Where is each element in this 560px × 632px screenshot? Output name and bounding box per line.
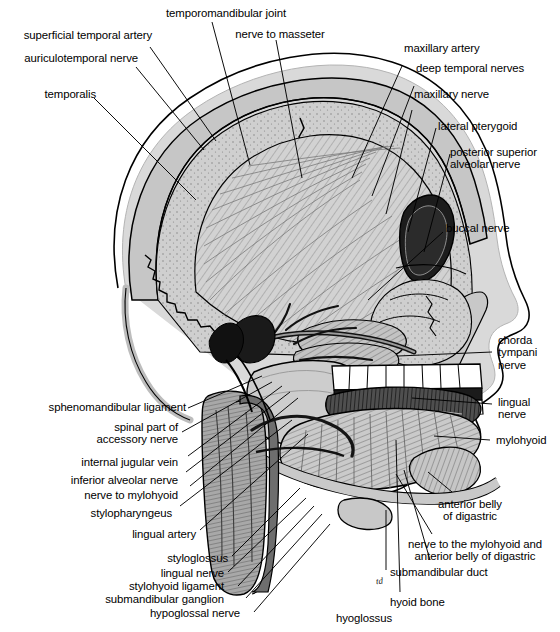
label-hypoglossal-nerve: hypoglossal nerve: [0, 607, 240, 619]
label-submandibular-duct: submandibular duct: [390, 566, 488, 578]
label-submandibular-ganglion: submandibular ganglion: [0, 593, 224, 605]
label-lingual-artery: lingual artery: [0, 528, 196, 540]
label-deep-temporal-nerves: deep temporal nerves: [416, 62, 524, 74]
label-maxillary-nerve: maxillary nerve: [414, 88, 489, 100]
anatomical-diagram: superficial temporal artery auriculotemp…: [0, 0, 560, 632]
label-anterior-belly-of-digastric: anterior belly of digastric: [424, 498, 516, 523]
label-mylohyoid: mylohyoid: [496, 434, 546, 446]
label-chorda-tympani-nerve: chorda tympani nerve: [498, 334, 537, 371]
artist-signature-mark: td: [375, 576, 383, 587]
label-sphenomandibular-ligament: sphenomandibular ligament: [0, 401, 186, 413]
label-superficial-temporal-artery: superficial temporal artery: [0, 29, 152, 41]
label-lingual-nerve-right: lingual nerve: [498, 396, 530, 421]
label-nerve-to-mylohyoid-and-anterior-belly-of-digastric: nerve to the mylohyoid and anterior bell…: [390, 538, 560, 563]
label-lingual-nerve-left: lingual nerve: [0, 567, 224, 579]
label-spinal-part-of-accessory-nerve: spinal part of accessory nerve: [0, 421, 178, 446]
hyoid-bone: [338, 498, 392, 529]
label-stylohyoid-ligament: stylohyoid ligament: [0, 580, 224, 592]
label-lateral-pterygoid: lateral pterygoid: [438, 120, 517, 132]
label-temporomandibular-joint: temporomandibular joint: [148, 7, 304, 19]
anterior-belly-digastric: [410, 447, 481, 495]
label-buccal-nerve: buccal nerve: [446, 222, 509, 234]
label-nerve-to-mylohyoid: nerve to mylohyoid: [0, 489, 178, 501]
label-inferior-alveolar-nerve: inferior alveolar nerve: [0, 474, 178, 486]
label-auriculotemporal-nerve: auriculotemporal nerve: [0, 52, 138, 64]
label-hyoid-bone: hyoid bone: [390, 596, 445, 608]
label-styloglossus: styloglossus: [0, 552, 228, 564]
label-internal-jugular-vein: internal jugular vein: [0, 456, 178, 468]
label-posterior-superior-alveolar-nerve: posterior superior alveolar nerve: [450, 146, 537, 171]
label-stylopharyngeus: stylopharyngeus: [0, 507, 172, 519]
label-temporalis: temporalis: [0, 88, 96, 100]
label-maxillary-artery: maxillary artery: [404, 42, 480, 54]
label-nerve-to-masseter: nerve to masseter: [216, 28, 344, 40]
label-hyoglossus: hyoglossus: [336, 612, 392, 624]
